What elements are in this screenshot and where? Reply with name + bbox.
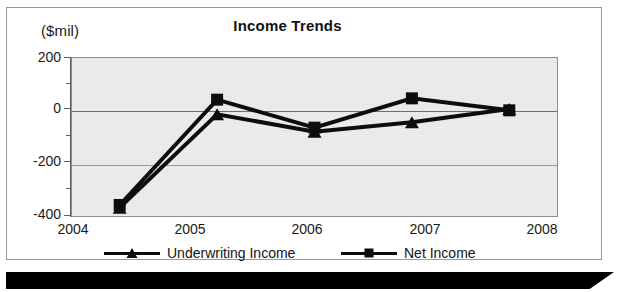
data-point <box>406 92 418 104</box>
data-point <box>114 199 126 211</box>
legend-key-triangle <box>104 246 160 260</box>
net-income-markers <box>114 92 516 211</box>
legend-item-net-income[interactable]: Net Income <box>341 243 476 263</box>
data-point <box>503 104 515 116</box>
square-marker-icon <box>363 247 375 259</box>
legend-item-underwriting-income[interactable]: Underwriting Income <box>104 243 295 263</box>
triangle-marker-icon <box>126 247 138 259</box>
data-point <box>211 94 223 106</box>
page-bottom-black-band <box>6 272 614 289</box>
legend-label-net-income: Net Income <box>404 245 476 261</box>
chart-legend: Underwriting Income Net Income <box>71 243 558 265</box>
data-point <box>309 122 321 134</box>
legend-label-underwriting-income: Underwriting Income <box>167 245 295 261</box>
income-trends-chart: ($mil) Income Trends 200 0 -200 -400 200… <box>0 0 620 292</box>
legend-key-square <box>341 246 397 260</box>
